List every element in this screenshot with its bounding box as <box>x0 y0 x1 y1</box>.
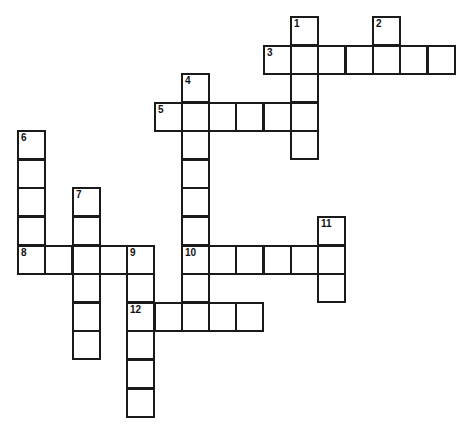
crossword-cell[interactable]: 4 <box>181 73 210 103</box>
crossword-grid: 123410568791211 <box>0 0 460 425</box>
clue-number: 11 <box>321 218 332 229</box>
crossword-cell[interactable] <box>208 245 237 275</box>
crossword-cell[interactable]: 7 <box>72 187 101 217</box>
crossword-cell[interactable] <box>17 216 46 246</box>
clue-number: 3 <box>267 47 273 58</box>
crossword-cell[interactable] <box>181 302 210 332</box>
crossword-cell[interactable] <box>181 130 210 160</box>
crossword-cell[interactable] <box>72 330 101 360</box>
crossword-cell[interactable] <box>290 130 319 160</box>
crossword-cell[interactable] <box>235 245 264 275</box>
crossword-cell[interactable] <box>99 245 128 275</box>
crossword-cell[interactable] <box>154 302 183 332</box>
crossword-cell[interactable] <box>126 273 155 303</box>
crossword-cell[interactable]: 1 <box>290 16 319 46</box>
clue-number: 10 <box>185 247 196 258</box>
crossword-cell[interactable]: 11 <box>317 216 346 246</box>
crossword-cell[interactable] <box>263 245 292 275</box>
crossword-cell[interactable] <box>317 45 346 75</box>
crossword-cell[interactable] <box>317 245 346 275</box>
crossword-cell[interactable]: 8 <box>17 245 46 275</box>
clue-number: 6 <box>21 132 27 143</box>
crossword-cell[interactable] <box>126 388 155 418</box>
clue-number: 9 <box>130 247 136 258</box>
crossword-cell[interactable] <box>317 273 346 303</box>
crossword-cell[interactable] <box>17 159 46 189</box>
crossword-cell[interactable]: 10 <box>181 245 210 275</box>
clue-number: 2 <box>376 18 382 29</box>
crossword-cell[interactable] <box>181 159 210 189</box>
crossword-cell[interactable] <box>290 73 319 103</box>
crossword-cell[interactable] <box>181 273 210 303</box>
crossword-cell[interactable]: 2 <box>372 16 401 46</box>
crossword-cell[interactable] <box>345 45 374 75</box>
clue-number: 12 <box>130 304 141 315</box>
clue-number: 8 <box>21 247 27 258</box>
crossword-cell[interactable] <box>290 45 319 75</box>
crossword-cell[interactable] <box>72 216 101 246</box>
crossword-cell[interactable]: 9 <box>126 245 155 275</box>
crossword-cell[interactable] <box>72 245 101 275</box>
crossword-cell[interactable] <box>181 216 210 246</box>
clue-number: 1 <box>294 18 300 29</box>
crossword-cell[interactable] <box>208 102 237 132</box>
clue-number: 5 <box>158 104 164 115</box>
crossword-cell[interactable] <box>372 45 401 75</box>
clue-number: 7 <box>76 189 82 200</box>
crossword-cell[interactable] <box>181 187 210 217</box>
crossword-cell[interactable] <box>235 102 264 132</box>
crossword-cell[interactable] <box>72 302 101 332</box>
crossword-cell[interactable]: 5 <box>154 102 183 132</box>
crossword-cell[interactable] <box>399 45 428 75</box>
crossword-cell[interactable] <box>208 302 237 332</box>
crossword-cell[interactable] <box>72 273 101 303</box>
crossword-cell[interactable] <box>126 330 155 360</box>
crossword-cell[interactable] <box>44 245 73 275</box>
crossword-cell[interactable] <box>263 102 292 132</box>
crossword-cell[interactable] <box>290 102 319 132</box>
crossword-cell[interactable] <box>290 245 319 275</box>
crossword-cell[interactable]: 12 <box>126 302 155 332</box>
crossword-cell[interactable] <box>181 102 210 132</box>
crossword-cell[interactable]: 6 <box>17 130 46 160</box>
crossword-cell[interactable] <box>427 45 456 75</box>
clue-number: 4 <box>185 75 191 86</box>
crossword-cell[interactable] <box>235 302 264 332</box>
crossword-cell[interactable] <box>17 187 46 217</box>
crossword-cell[interactable] <box>126 359 155 389</box>
crossword-cell[interactable]: 3 <box>263 45 292 75</box>
